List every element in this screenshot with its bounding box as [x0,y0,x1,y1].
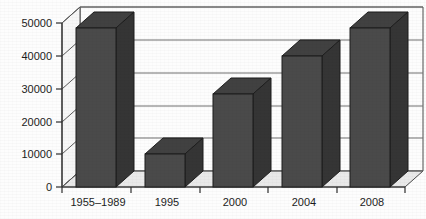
bar-side-face [390,12,408,187]
bar-front-face [145,154,185,187]
bar-2000[interactable] [213,78,271,187]
x-tick-label-1995: 1995 [155,196,179,208]
bar-2004[interactable] [282,40,340,187]
y-tick-label-10000: 10000 [21,148,52,160]
bar-front-face [213,94,253,187]
y-tick-label-0: 0 [46,181,52,193]
x-tick-label-2008: 2008 [360,196,384,208]
bar-front-face [76,28,116,187]
bar-front-face [350,28,390,187]
x-tick-label-2004: 2004 [292,196,316,208]
y-tick-label-50000: 50000 [21,17,52,29]
x-tick-label-2000: 2000 [223,196,247,208]
bar-chart: 50000 40000 30000 20000 10000 0 [0,0,426,219]
bar-side-face [322,40,340,187]
chart-screenshot: 50000 40000 30000 20000 10000 0 [0,0,426,219]
bar-2008[interactable] [350,12,408,187]
y-axis-ticks [56,23,62,187]
y-tick-label-30000: 30000 [21,83,52,95]
bar-front-face [282,56,322,187]
x-axis-ticks [62,187,405,193]
bar-side-face [253,78,271,187]
y-tick-label-20000: 20000 [21,116,52,128]
y-tick-label-40000: 40000 [21,50,52,62]
bar-side-face [116,12,134,187]
bar-1955-1989[interactable] [76,12,134,187]
x-tick-label-1955-1989: 1955–1989 [70,196,125,208]
